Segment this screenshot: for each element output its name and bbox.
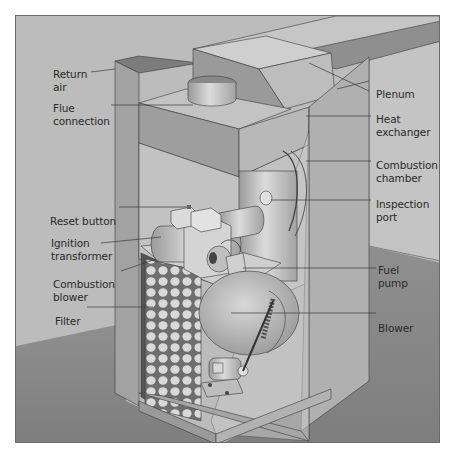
label-plenum: Plenum <box>376 88 415 101</box>
label-return-air: Return air <box>53 68 87 94</box>
flue-collar <box>188 83 236 106</box>
diagram-frame: Return air Flue connection Reset button … <box>15 15 440 443</box>
label-filter: Filter <box>55 315 80 328</box>
label-inspection-port: Inspection port <box>376 198 429 224</box>
label-combustion-chamber: Combustion chamber <box>376 159 438 185</box>
label-combustion-blower: Combustion blower <box>53 278 115 304</box>
reset-button-glyph <box>187 205 191 209</box>
return-air-duct <box>115 61 139 406</box>
label-blower: Blower <box>378 322 413 335</box>
label-ignition-transformer: Ignition transformer <box>51 237 112 263</box>
label-heat-exchanger: Heat exchanger <box>376 113 430 139</box>
inspection-port-window <box>260 191 272 205</box>
label-reset-button: Reset button <box>50 215 116 228</box>
label-fuel-pump: Fuel pump <box>378 264 408 290</box>
label-flue-connection: Flue connection <box>53 102 110 128</box>
